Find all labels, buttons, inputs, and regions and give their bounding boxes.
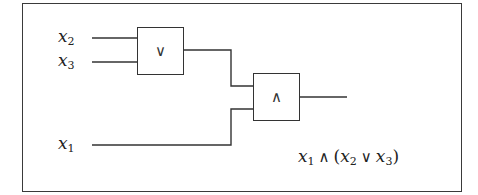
input-label-x3: x3 — [58, 52, 75, 71]
input-label-x2: x2 — [58, 28, 75, 47]
or-gate: ∨ — [137, 27, 184, 75]
input-label-x1: x1 — [58, 135, 75, 154]
or-gate-symbol: ∨ — [155, 42, 166, 60]
wire-or-to-and — [183, 50, 253, 86]
and-gate: ∧ — [253, 73, 300, 121]
wire-x1 — [92, 109, 253, 145]
and-gate-symbol: ∧ — [271, 88, 282, 106]
output-expression: x1∧(x2∨x3) — [298, 146, 399, 168]
